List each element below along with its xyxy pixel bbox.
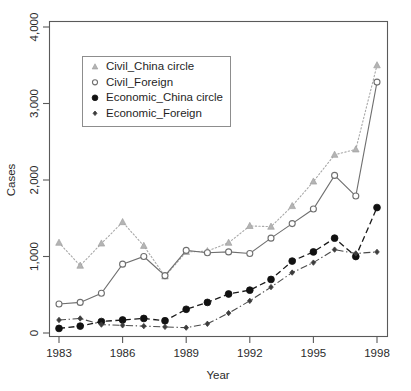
marker-open-circle (310, 206, 316, 212)
y-axis-ticks: 01,0002,0003,0004,000 (28, 13, 50, 337)
marker-open-circle (289, 221, 295, 227)
series-filled-circle (56, 204, 381, 332)
marker-open-circle (332, 172, 338, 178)
marker-open-circle (204, 250, 210, 256)
marker-open-circle (120, 261, 126, 267)
series-line (59, 250, 377, 328)
plot-frame (50, 22, 388, 337)
line-chart-plot: 01,0002,0003,0004,000 198319861989199219… (0, 0, 411, 391)
marker-diamond (205, 321, 210, 326)
series-line (59, 208, 377, 329)
marker-open-circle (56, 301, 62, 307)
marker-diamond (142, 323, 147, 328)
marker-triangle (56, 239, 63, 245)
y-tick-label: 2,000 (28, 166, 40, 195)
x-axis-ticks: 198319861989199219951998 (46, 337, 390, 360)
marker-open-circle (247, 250, 253, 256)
marker-triangle (310, 178, 317, 184)
marker-triangle (246, 222, 253, 228)
y-tick-label: 4,000 (28, 13, 40, 42)
marker-triangle (352, 146, 359, 152)
marker-open-circle (162, 273, 168, 279)
x-tick-label: 1998 (364, 347, 390, 359)
y-tick-label: 1,000 (28, 242, 40, 271)
marker-open-circle (226, 249, 232, 255)
x-tick-label: 1989 (173, 347, 199, 359)
marker-filled-circle (183, 306, 190, 313)
marker-diamond (184, 325, 189, 330)
marker-diamond (120, 323, 125, 328)
legend-items: Civil_China circleCivil_ForeignEconomic_… (92, 60, 223, 119)
marker-filled-circle (204, 299, 211, 306)
marker-filled-circle (162, 317, 169, 324)
chart-container: 01,0002,0003,0004,000 198319861989199219… (0, 0, 411, 391)
marker-diamond (93, 111, 97, 116)
chart-legend: Civil_China circleCivil_ForeignEconomic_… (83, 57, 231, 127)
marker-filled-circle (331, 235, 338, 242)
x-axis-title: Year (206, 369, 229, 381)
y-tick-label: 0 (28, 330, 40, 336)
x-tick-label: 1992 (237, 347, 263, 359)
legend-item-label: Economic_Foreign (106, 107, 202, 119)
marker-filled-circle (268, 276, 275, 283)
marker-diamond (332, 247, 337, 252)
marker-diamond (290, 270, 295, 275)
marker-filled-circle (310, 249, 317, 256)
marker-open-circle (92, 80, 97, 85)
marker-diamond (269, 284, 274, 289)
marker-open-circle (374, 79, 380, 85)
marker-filled-circle (77, 323, 84, 330)
marker-triangle (92, 64, 98, 69)
marker-diamond (226, 310, 231, 315)
legend-item-label: Civil_Foreign (106, 76, 173, 88)
legend-item-label: Economic_China circle (106, 91, 223, 103)
marker-diamond (78, 316, 83, 321)
marker-filled-circle (225, 291, 232, 298)
marker-open-circle (77, 299, 83, 305)
marker-diamond (375, 249, 380, 254)
marker-diamond (311, 260, 316, 265)
x-tick-label: 1995 (301, 347, 327, 359)
marker-filled-circle (246, 287, 253, 294)
marker-triangle (225, 239, 232, 245)
marker-open-circle (98, 290, 104, 296)
marker-diamond (57, 317, 62, 322)
marker-triangle (77, 262, 84, 268)
marker-diamond (248, 298, 253, 303)
legend-item-label: Civil_China circle (106, 60, 194, 72)
marker-triangle (289, 202, 296, 208)
x-tick-label: 1983 (46, 347, 72, 359)
y-axis-title: Cases (5, 163, 17, 196)
marker-open-circle (141, 254, 147, 260)
marker-triangle (331, 151, 338, 157)
marker-open-circle (268, 235, 274, 241)
marker-filled-circle (140, 315, 147, 322)
marker-filled-circle (56, 325, 63, 332)
marker-diamond (163, 324, 168, 329)
marker-open-circle (353, 193, 359, 199)
marker-filled-circle (92, 95, 98, 101)
marker-filled-circle (374, 204, 381, 211)
series-open-circle (56, 79, 380, 307)
y-tick-label: 3,000 (28, 89, 40, 118)
marker-triangle (119, 218, 126, 224)
marker-open-circle (183, 247, 189, 253)
marker-filled-circle (289, 258, 296, 265)
marker-triangle (374, 62, 381, 68)
x-tick-label: 1986 (110, 347, 136, 359)
